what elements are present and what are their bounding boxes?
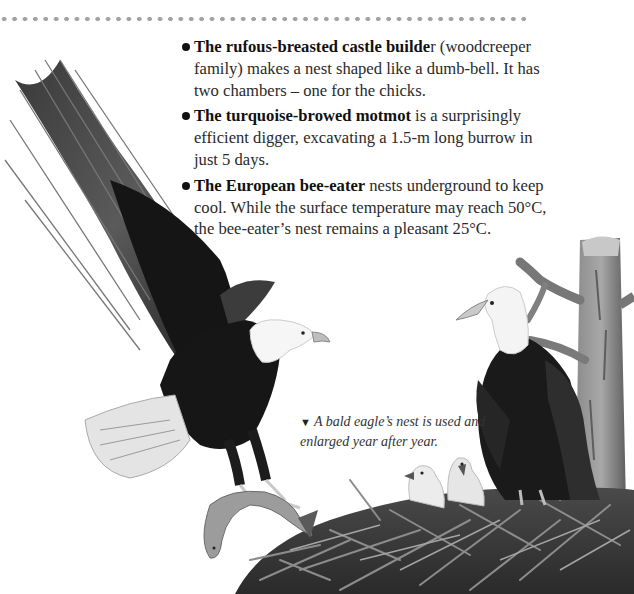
fact-heading: The rufous-breasted castle builde (194, 37, 430, 56)
bullet-icon (182, 182, 190, 190)
fact-item-castle-builder: The rufous-breasted castle builder (wood… (182, 36, 552, 101)
bullet-icon (182, 43, 190, 51)
fact-heading: The European bee-eater (194, 176, 365, 195)
fact-item-bee-eater: The European bee-eater nests underground… (182, 175, 552, 240)
illustration-caption: ▼A bald eagle’s nest is used and enlarge… (300, 412, 510, 451)
fact-heading: The turquoise-browed motmot (194, 106, 411, 125)
fact-item-motmot: The turquoise-browed motmot is a surpris… (182, 105, 552, 170)
nest-facts-list: The rufous-breasted castle builder (wood… (182, 36, 552, 244)
eaglets (404, 458, 484, 508)
down-triangle-icon: ▼ (300, 416, 311, 428)
caption-text: A bald eagle’s nest is used and enlarged… (300, 414, 485, 449)
bullet-icon (182, 112, 190, 120)
